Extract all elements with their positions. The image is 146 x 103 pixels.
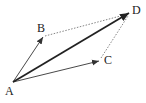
vector-ad-arrow	[13, 13, 129, 82]
parallelogram-diagram: A B C D	[0, 0, 146, 103]
point-label-c: C	[104, 53, 112, 67]
vector-ab-arrow	[13, 37, 43, 82]
point-label-b: B	[37, 21, 45, 35]
point-label-a: A	[5, 84, 14, 98]
vector-ac-arrow	[13, 61, 99, 82]
segment-bd-dotted	[45, 14, 128, 36]
point-label-d: D	[132, 3, 141, 17]
